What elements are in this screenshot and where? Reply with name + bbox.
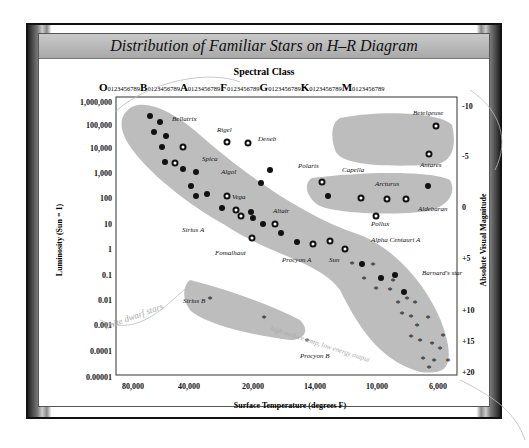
svg-text:Capella: Capella xyxy=(342,166,365,174)
svg-text:Procyon B: Procyon B xyxy=(299,352,330,360)
supergiant-region xyxy=(332,113,454,165)
magnitude-ticks: -10 -5 0 +5 +10 +15 +20 xyxy=(462,102,475,377)
svg-text:*: * xyxy=(427,363,432,374)
svg-text:*: * xyxy=(262,313,267,324)
svg-text:Antares: Antares xyxy=(419,161,442,169)
svg-text:*: * xyxy=(405,294,410,305)
svg-text:-5: -5 xyxy=(462,152,469,161)
svg-text:Sirius A: Sirius A xyxy=(182,226,205,234)
svg-text:*: * xyxy=(438,344,443,355)
svg-text:100,000: 100,000 xyxy=(86,121,112,130)
svg-text:*: * xyxy=(374,284,379,295)
svg-text:*: * xyxy=(396,298,401,309)
svg-text:+10: +10 xyxy=(462,306,475,315)
svg-text:Vega: Vega xyxy=(232,193,246,201)
svg-text:*: * xyxy=(409,332,414,343)
svg-text:*: * xyxy=(400,309,405,320)
svg-text:0.01: 0.01 xyxy=(98,296,112,305)
svg-text:0.00001: 0.00001 xyxy=(86,373,112,382)
svg-text:+15: +15 xyxy=(462,337,475,346)
svg-text:1: 1 xyxy=(108,245,112,254)
svg-text:Spica: Spica xyxy=(202,155,218,163)
svg-text:*: * xyxy=(371,260,376,271)
svg-text:Procyon A: Procyon A xyxy=(281,256,312,264)
svg-text:0: 0 xyxy=(462,203,466,212)
svg-text:*: * xyxy=(409,312,414,323)
svg-text:+20: +20 xyxy=(462,368,475,377)
svg-text:Fomalhaut: Fomalhaut xyxy=(214,249,247,257)
svg-text:6,000: 6,000 xyxy=(429,382,447,391)
svg-text:*: * xyxy=(421,354,426,365)
svg-text:Pollux: Pollux xyxy=(370,220,390,228)
svg-text:Bellatrix: Bellatrix xyxy=(172,115,197,123)
svg-text:*: * xyxy=(418,336,423,347)
svg-text:0.0001: 0.0001 xyxy=(90,347,112,356)
svg-text:Alpha Centauri A: Alpha Centauri A xyxy=(370,236,421,244)
svg-text:14,000: 14,000 xyxy=(304,382,326,391)
svg-text:Aldebaran: Aldebaran xyxy=(417,205,448,213)
svg-text:-10: -10 xyxy=(462,102,473,111)
svg-text:Arcturus: Arcturus xyxy=(374,180,400,188)
svg-text:*: * xyxy=(432,356,437,367)
svg-text:Barnard's star: Barnard's star xyxy=(422,269,463,277)
svg-text:*: * xyxy=(415,321,420,332)
svg-text:*: * xyxy=(430,339,435,350)
svg-text:*: * xyxy=(391,276,396,287)
svg-text:1,000,000: 1,000,000 xyxy=(80,98,112,107)
svg-text:*: * xyxy=(446,356,451,367)
svg-text:*: * xyxy=(350,259,355,270)
svg-text:10,000: 10,000 xyxy=(90,144,112,153)
svg-text:40,000: 40,000 xyxy=(178,382,200,391)
temperature-ticks: 80,000 40,000 20,000 14,000 10,000 6,000 xyxy=(122,382,447,391)
svg-text:*: * xyxy=(362,274,367,285)
svg-text:0.1: 0.1 xyxy=(102,271,112,280)
svg-text:*: * xyxy=(441,331,446,342)
svg-text:*: * xyxy=(208,294,213,305)
svg-text:20,000: 20,000 xyxy=(242,382,264,391)
svg-text:10: 10 xyxy=(104,220,112,229)
x-axis-label: Surface Temperature (degrees F) xyxy=(234,401,347,410)
svg-text:*: * xyxy=(426,313,431,324)
y2-axis-label: Absolute Visual Magnitude xyxy=(479,193,488,286)
svg-text:+5: +5 xyxy=(462,254,471,263)
svg-text:Algol: Algol xyxy=(220,168,236,176)
svg-text:Rigel: Rigel xyxy=(216,126,232,134)
luminosity-ticks: 1,000,000 100,000 10,000 1,000 100 10 1 … xyxy=(80,98,112,382)
y-axis-label: Luminosity (Sun = 1) xyxy=(55,203,64,276)
svg-text:Polaris: Polaris xyxy=(297,162,319,170)
svg-text:Altair: Altair xyxy=(272,207,290,215)
svg-text:*: * xyxy=(413,298,418,309)
svg-text:80,000: 80,000 xyxy=(122,382,144,391)
svg-text:10,000: 10,000 xyxy=(366,382,388,391)
svg-text:Deneb: Deneb xyxy=(257,135,277,143)
svg-text:1,000: 1,000 xyxy=(94,169,112,178)
svg-text:Sun: Sun xyxy=(329,256,340,264)
svg-text:Sirius B: Sirius B xyxy=(183,297,206,305)
svg-text:white dwarf stars: white dwarf stars xyxy=(102,301,165,332)
svg-text:100: 100 xyxy=(100,194,112,203)
hr-diagram-plot: ***** ***** ***** ***** ** *** Bellatrix… xyxy=(0,0,529,448)
svg-text:Betelgeuse: Betelgeuse xyxy=(413,109,443,117)
